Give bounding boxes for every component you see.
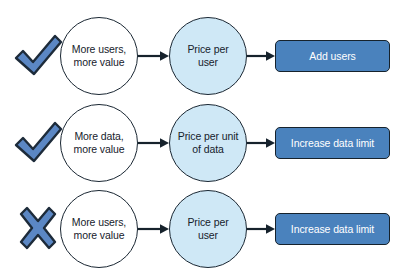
arrow-metric-to-action [247,50,276,62]
action-button-label: Increase data limit [291,137,374,149]
source-circle: More users,more value [60,17,138,95]
diagram-row: More users,more value Price peruser Add … [0,12,408,100]
action-button[interactable]: Increase data limit [275,213,390,245]
diagram-canvas: More users,more value Price peruser Add … [0,0,408,280]
metric-circle-label: Price per unitof data [173,130,243,155]
source-circle: More data,more value [60,104,138,182]
source-circle-label: More users,more value [67,216,131,241]
check-icon [12,28,64,84]
metric-circle: Price per unitof data [169,104,247,182]
arrow-metric-to-action [247,223,276,235]
arrow-source-to-metric [138,223,170,235]
source-circle-label: More data,more value [69,130,130,155]
action-button[interactable]: Increase data limit [275,127,390,159]
source-circle-label: More users,more value [67,43,131,68]
arrow-source-to-metric [138,137,170,149]
check-icon [12,115,64,171]
arrow-metric-to-action [247,137,276,149]
source-circle: More users,more value [60,190,138,268]
diagram-row: More data,more value Price per unitof da… [0,99,408,187]
action-button[interactable]: Add users [275,40,390,72]
metric-circle-label: Price peruser [182,216,233,241]
action-button-label: Add users [309,50,355,62]
action-button-label: Increase data limit [291,223,374,235]
metric-circle: Price peruser [169,190,247,268]
x-icon [12,201,64,257]
metric-circle-label: Price peruser [182,43,233,68]
arrow-source-to-metric [138,50,170,62]
diagram-row: More users,more value Price peruser Incr… [0,185,408,273]
metric-circle: Price peruser [169,17,247,95]
